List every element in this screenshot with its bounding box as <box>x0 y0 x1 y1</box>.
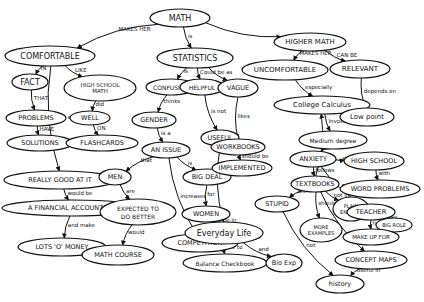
node-stupid[interactable]: STUPID <box>255 196 299 212</box>
node-textbooks[interactable]: TEXTBOOKS <box>291 176 339 192</box>
node-label: ANXIETY <box>299 155 327 163</box>
edge-label: that <box>141 157 153 163</box>
node-label: BIG DEAL <box>192 173 223 181</box>
node-solutions[interactable]: SOLUTIONS <box>7 135 73 151</box>
node-label: HELPFUL <box>189 84 216 91</box>
node-fact[interactable]: FACT <box>12 74 48 90</box>
node-helpful[interactable]: HELPFUL <box>180 79 224 95</box>
edge-workbooks-to-implemented <box>239 155 240 160</box>
edge-math-to-higher_math <box>206 23 282 37</box>
node-label: MATH COURSE <box>94 251 142 259</box>
node-word-problems[interactable]: WORD PROBLEMS <box>340 180 420 198</box>
node-implemented[interactable]: IMPLEMENTED <box>212 160 272 176</box>
edge-teacher-to-make_up_for <box>370 220 371 229</box>
node-expected[interactable]: EXPECTED TODO BETTER <box>100 199 176 225</box>
node-comfortable[interactable]: COMFORTABLE <box>5 46 95 66</box>
edge-label: MAKES HER <box>118 26 150 32</box>
concept-map: MAKES HERINTHATHAVELIKEdidONIf she waswo… <box>0 0 424 302</box>
node-label: Medium degree <box>310 137 357 145</box>
node-label: IMPLEMENTED <box>219 164 266 172</box>
node-gender[interactable]: GENDER <box>132 112 176 128</box>
node-history[interactable]: history <box>316 275 364 293</box>
node-higher-math[interactable]: HIGHER MATH <box>274 33 346 51</box>
edge-line <box>177 157 196 170</box>
node-label: UNCOMFORTABLE <box>254 66 316 74</box>
node-bio-exp[interactable]: Bio Exp <box>266 254 302 272</box>
edge-label: LIKE <box>75 67 87 73</box>
node-concept-maps[interactable]: CONCEPT MAPS <box>335 251 407 269</box>
node-label: STATISTICS <box>173 54 217 63</box>
node-an-issue[interactable]: AN ISSUE <box>142 142 190 158</box>
node-everyday-life[interactable]: Everyday Life <box>185 222 263 244</box>
edge-label: likes <box>238 113 250 119</box>
edge-label: is <box>188 33 193 39</box>
node-label: PROBLEMS <box>18 114 53 122</box>
node-label: WELL <box>81 114 99 122</box>
node-label: REALLY GOOD AT IT <box>28 176 92 184</box>
node-label: VAGUE <box>227 84 249 92</box>
node-flashcards[interactable]: FLASHCARDS <box>66 135 138 151</box>
node-anxiety[interactable]: ANXIETY <box>290 151 336 167</box>
node-low-point[interactable]: Low point <box>340 108 394 126</box>
node-label: Balance Checkbook <box>196 260 255 267</box>
node-men[interactable]: MEN <box>99 169 131 185</box>
edge-label: ON <box>97 125 105 131</box>
node-label: LOTS 'O' MONEY <box>35 243 88 251</box>
node-teacher[interactable]: TEACHER <box>347 204 395 220</box>
node-balance-checkbook[interactable]: Balance Checkbook <box>183 254 267 272</box>
node-label: HIGHER MATH <box>285 38 334 46</box>
edge-problems-to-solutions <box>37 126 38 135</box>
node-label: RELEVANT <box>342 65 379 73</box>
node-label: MEN <box>108 173 123 181</box>
edge-label: are <box>126 188 136 194</box>
edge-label: Could be as <box>200 69 232 75</box>
node-vague[interactable]: VAGUE <box>218 79 258 97</box>
node-medium-degree[interactable]: Medium degree <box>299 131 367 149</box>
node-hs-math[interactable]: HIGH SCHOOLMATH <box>64 75 136 101</box>
edge-label: is a <box>161 130 171 136</box>
node-label: Everyday Life <box>197 229 251 238</box>
node-label: MAKE UP FOR <box>352 234 390 240</box>
edge-line <box>37 126 38 135</box>
edge-label: THAT <box>33 95 49 101</box>
node-label: CONCEPT MAPS <box>345 256 396 264</box>
node-label: BIG ROLE <box>382 222 406 228</box>
node-well[interactable]: WELL <box>70 111 110 125</box>
node-workbooks[interactable]: WORKBOOKS <box>211 139 265 155</box>
node-label: TEACHER <box>355 208 387 216</box>
edge-label: for <box>207 191 215 197</box>
node-more-examples[interactable]: MOREEXAMPLES <box>300 218 342 242</box>
edge-label: depends on <box>364 88 397 95</box>
edge-label: and make <box>68 222 96 228</box>
node-label: WORKBOOKS <box>216 143 259 151</box>
edge-label: CAN BE <box>337 52 358 58</box>
node-relevant[interactable]: RELEVANT <box>330 60 390 78</box>
edge-line <box>206 23 282 37</box>
node-label: FLASHCARDS <box>80 139 124 147</box>
edge-label: HAVE <box>40 126 55 132</box>
node-label: TEXTBOOKS <box>294 180 334 188</box>
edge-label: and <box>258 246 268 252</box>
node-women[interactable]: WOMEN <box>182 206 230 222</box>
edge-label: is not <box>211 108 227 114</box>
node-make-up-for[interactable]: MAKE UP FOR <box>343 229 399 245</box>
node-statistics[interactable]: STATISTICS <box>157 48 233 68</box>
node-math-course[interactable]: MATH COURSE <box>82 245 154 265</box>
node-label: SOLUTIONS <box>21 139 58 147</box>
node-high-school[interactable]: HIGH SCHOOL <box>344 152 404 170</box>
node-uncomfortable[interactable]: UNCOMFORTABLE <box>242 60 328 80</box>
edge-line <box>370 220 371 229</box>
edge-line <box>313 167 314 176</box>
node-math[interactable]: MATH <box>150 9 210 27</box>
node-label: Low point <box>350 113 384 121</box>
node-problems[interactable]: PROBLEMS <box>6 110 66 126</box>
node-label: AN ISSUE <box>151 146 181 154</box>
edge-anxiety-to-textbooks <box>313 167 314 176</box>
edge-line <box>239 155 240 160</box>
node-label: Bio Exp <box>272 259 296 267</box>
edge-label: did <box>95 101 104 107</box>
node-really-good[interactable]: REALLY GOOD AT IT <box>4 171 116 189</box>
node-label: history <box>329 280 352 288</box>
node-label: GENDER <box>140 116 168 124</box>
edge-label: follows <box>316 167 335 173</box>
